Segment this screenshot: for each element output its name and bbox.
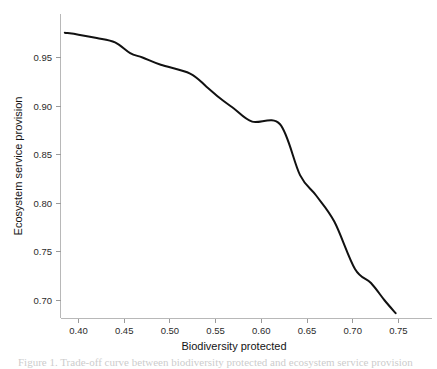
y-tick-label: 0.75 bbox=[34, 246, 53, 257]
figure-container: 0.95 0.90 0.85 0.80 0.75 0.70 0.40 0.45 … bbox=[0, 0, 437, 369]
x-tick-label: 0.60 bbox=[252, 325, 271, 336]
x-tick-label: 0.45 bbox=[115, 325, 134, 336]
x-tick-label: 0.75 bbox=[389, 325, 408, 336]
y-axis-title: Ecosystem service provision bbox=[12, 97, 24, 236]
x-tick-label: 0.55 bbox=[206, 325, 225, 336]
x-tick-label: 0.50 bbox=[161, 325, 180, 336]
figure-caption-strip: Figure 1. Trade-off curve between biodiv… bbox=[0, 358, 437, 369]
chart-canvas: 0.95 0.90 0.85 0.80 0.75 0.70 0.40 0.45 … bbox=[0, 0, 437, 369]
y-tick-label: 0.80 bbox=[34, 198, 53, 209]
y-tick-label: 0.95 bbox=[34, 52, 53, 63]
y-tick-label: 0.85 bbox=[34, 149, 53, 160]
x-tick-label: 0.70 bbox=[343, 325, 362, 336]
x-tick-label: 0.40 bbox=[69, 325, 88, 336]
x-axis-title: Biodiversity protected bbox=[181, 340, 286, 352]
x-tick-label: 0.65 bbox=[298, 325, 317, 336]
y-tick-label: 0.90 bbox=[34, 101, 53, 112]
y-tick-label: 0.70 bbox=[34, 295, 53, 306]
chart-background bbox=[0, 0, 437, 369]
figure-caption: Figure 1. Trade-off curve between biodiv… bbox=[18, 358, 428, 368]
